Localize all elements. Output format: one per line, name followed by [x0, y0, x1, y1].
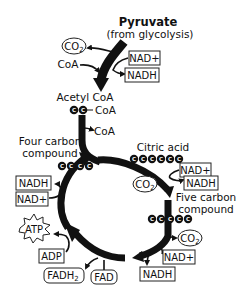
svg-text:C: C — [60, 163, 64, 169]
citric-acid-carbons: C C C C C C — [130, 155, 183, 163]
svg-text:C: C — [69, 163, 73, 169]
co2-bubble-1: CO2 — [133, 176, 157, 192]
nadh-box-2: NADH — [140, 267, 175, 281]
fadh2-arrow — [86, 258, 98, 268]
five-carbon-label-1: Five carbon — [176, 191, 236, 203]
coa-release-label: CoA — [94, 125, 116, 137]
citric-acid-label: Citric acid — [137, 141, 190, 153]
svg-text:C: C — [81, 107, 85, 113]
svg-text:C: C — [150, 156, 154, 162]
svg-text:NADH: NADH — [127, 70, 157, 81]
co2-bubble-pyruvate: CO2 — [62, 38, 113, 54]
five-carbon-label-2: compound — [178, 203, 234, 215]
nad-box-2: NAD+ — [163, 250, 195, 264]
nadh-box-pyruvate: NADH — [125, 68, 159, 82]
acetyl-coa-label: Acetyl CoA — [57, 91, 115, 103]
svg-text:C: C — [159, 216, 163, 222]
nad-box-pyruvate: NAD+ — [129, 51, 160, 65]
svg-text:C: C — [150, 216, 154, 222]
svg-text:NAD+: NAD+ — [129, 53, 159, 64]
svg-text:NADH: NADH — [143, 269, 173, 280]
pyruvate-subtitle: (from glycolysis) — [107, 28, 194, 40]
pyruvate-to-acetylcoa-arrow — [93, 42, 124, 92]
four-carbon-label-1: Four carbon — [19, 135, 82, 147]
svg-text:NADH: NADH — [19, 178, 49, 189]
svg-text:C: C — [72, 107, 76, 113]
coa-input-label: CoA — [58, 58, 80, 70]
svg-text:FAD: FAD — [94, 272, 114, 283]
svg-text:C: C — [186, 216, 190, 222]
cycle-arc-right — [140, 200, 168, 256]
fadh2-box: FADH2 — [44, 268, 84, 283]
svg-text:C: C — [168, 216, 172, 222]
svg-text:C: C — [132, 156, 136, 162]
five-carbon-carbons: C C C C C — [148, 215, 192, 223]
acetyl-coa-carbons: C C — [70, 106, 93, 115]
svg-text:C: C — [78, 163, 82, 169]
nadh-box-1: NADH — [184, 176, 218, 190]
svg-text:C: C — [177, 156, 181, 162]
svg-text:NAD+: NAD+ — [180, 165, 210, 176]
adp-box: ADP — [39, 249, 64, 263]
nad-box-1: NAD+ — [180, 163, 211, 177]
svg-text:C: C — [168, 156, 172, 162]
svg-text:ATP: ATP — [25, 224, 43, 235]
fad-box: FAD — [91, 270, 117, 284]
cycle-arc-bottom — [76, 234, 125, 258]
pyruvate-title: Pyruvate — [119, 15, 178, 29]
svg-text:C: C — [177, 216, 181, 222]
atp-starburst: ATP — [19, 214, 50, 243]
svg-text:C: C — [159, 156, 163, 162]
krebs-cycle-diagram: Pyruvate (from glycolysis) CO2 NAD+ NADH… — [0, 0, 243, 297]
svg-text:NAD+: NAD+ — [164, 252, 194, 263]
svg-text:C: C — [141, 156, 145, 162]
co2-bubble-2: CO2 — [178, 230, 202, 246]
svg-text:NAD+: NAD+ — [17, 194, 47, 205]
nad-box-3: NAD+ — [16, 192, 48, 206]
four-carbon-label-2: compound — [22, 147, 78, 159]
acetyl-coa-tag: CoA — [95, 104, 117, 116]
nadh-box-3: NADH — [16, 176, 51, 190]
coa-input-arrow — [80, 65, 99, 72]
svg-text:C: C — [87, 163, 91, 169]
svg-text:ADP: ADP — [41, 251, 62, 262]
svg-text:NADH: NADH — [186, 178, 216, 189]
